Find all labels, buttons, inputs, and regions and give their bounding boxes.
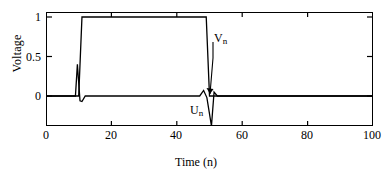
figure: 1 0.5 0 Voltage 0 20 40 60 80 100 Time (… [0, 0, 392, 180]
y-tick-label-0: 0 [35, 90, 41, 102]
y-tick-label-0.5: 0.5 [26, 51, 41, 63]
x-tick-label-100: 100 [363, 129, 381, 141]
x-tick-label-0: 0 [43, 129, 49, 141]
annotation-un-text: U [190, 103, 199, 117]
x-tick-label-80: 80 [301, 129, 313, 141]
x-axis-title: Time (n) [0, 155, 392, 170]
annotation-vn-text: V [214, 31, 223, 45]
annotation-vn-sub: n [223, 36, 228, 46]
x-tick-label-60: 60 [236, 129, 248, 141]
annotation-un-sub: n [199, 108, 204, 118]
plot-area [46, 12, 373, 126]
x-tick-label-40: 40 [170, 129, 182, 141]
annotation-vn: Vn [214, 32, 227, 46]
y-axis-title: Voltage [10, 18, 25, 90]
y-tick-label-1: 1 [35, 11, 41, 23]
x-tick-label-20: 20 [105, 129, 117, 141]
annotation-un: Un [190, 104, 203, 118]
